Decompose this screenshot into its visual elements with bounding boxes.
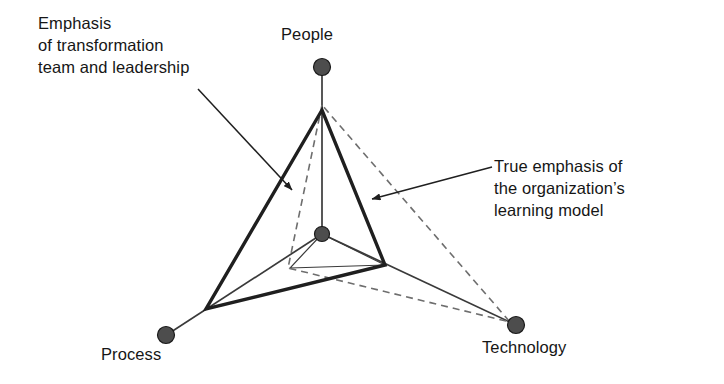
node-process <box>158 327 175 344</box>
annotation-right-line-3: learning model <box>494 199 625 221</box>
node-people <box>314 59 331 76</box>
vertex-label-technology: Technology <box>482 338 566 357</box>
node-center <box>315 227 330 242</box>
annotation-right-line-2: the organization’s <box>494 177 625 199</box>
annotation-left-line-2: of transformation <box>38 34 189 56</box>
vertex-label-people: People <box>281 25 333 44</box>
annotation-true-emphasis: True emphasis of the organization’s lear… <box>494 155 625 221</box>
annotation-left-line-3: team and leadership <box>38 56 189 78</box>
inner-reference-triangle <box>290 234 385 268</box>
annotation-right-line-1: True emphasis of <box>494 155 625 177</box>
spoke-technology <box>322 234 514 324</box>
true-emphasis-shape <box>206 110 385 309</box>
node-technology <box>508 317 525 334</box>
annotation-left-arrow <box>198 89 292 190</box>
vertex-label-process: Process <box>101 345 161 364</box>
annotation-transformation-team: Emphasis of transformation team and lead… <box>38 12 189 78</box>
spoke-process <box>168 234 322 334</box>
diagram-canvas: People Process Technology Emphasis of tr… <box>0 0 724 384</box>
axis-spokes <box>168 70 514 334</box>
annotation-left-line-1: Emphasis <box>38 12 189 34</box>
